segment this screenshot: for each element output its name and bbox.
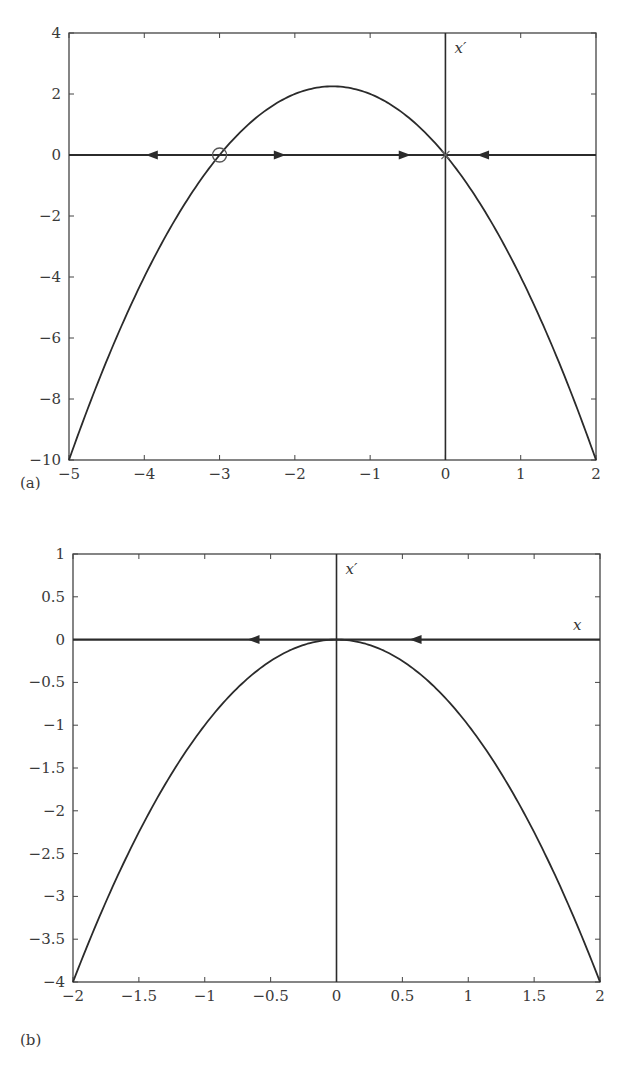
- arrow-right-icon: [399, 151, 411, 160]
- x-axis-label: x: [573, 616, 582, 634]
- y-tick-label: −0.5: [29, 673, 65, 691]
- y-tick-label: 1: [55, 545, 65, 563]
- panel-label-b: (b): [20, 1031, 41, 1049]
- panel-label-a: (a): [20, 474, 41, 492]
- x-tick-label: 0.5: [390, 987, 414, 1005]
- y-tick-label: −1.5: [29, 759, 65, 777]
- xprime-axis-label: x′: [346, 560, 358, 578]
- x-tick-label: 1.5: [522, 987, 546, 1005]
- x-tick-label: 1: [516, 465, 526, 483]
- x-tick-label: −2: [62, 987, 84, 1005]
- arrow-left-icon: [146, 151, 158, 160]
- x-tick-label: −2: [284, 465, 306, 483]
- y-tick-label: 4: [51, 24, 61, 42]
- curve-line: [69, 86, 596, 460]
- arrow-left-icon: [247, 635, 259, 644]
- y-tick-label: −2: [43, 802, 65, 820]
- x-tick-label: −0.5: [252, 987, 288, 1005]
- x-tick-label: −1.5: [121, 987, 157, 1005]
- chart-panel-b: −2−1.5−1−0.500.511.52−4−3.5−3−2.5−2−1.5−…: [29, 545, 605, 1005]
- x-tick-label: −4: [133, 465, 155, 483]
- y-tick-label: −8: [39, 390, 61, 408]
- y-tick-label: 0: [51, 146, 61, 164]
- x-tick-label: 0: [332, 987, 342, 1005]
- y-tick-label: −10: [29, 451, 61, 469]
- y-tick-label: 0.5: [41, 588, 65, 606]
- x-tick-label: 0: [441, 465, 451, 483]
- x-tick-label: 2: [591, 465, 601, 483]
- x-tick-label: 2: [595, 987, 605, 1005]
- y-tick-label: −3.5: [29, 930, 65, 948]
- y-tick-label: −6: [39, 329, 61, 347]
- chart-panel-a: −5−4−3−2−1012−10−8−6−4−2024x′: [29, 24, 600, 483]
- y-tick-label: −4: [43, 973, 65, 991]
- y-tick-label: −2: [39, 207, 61, 225]
- plot-frame: [69, 33, 596, 460]
- x-tick-label: −1: [359, 465, 381, 483]
- x-tick-label: −5: [58, 465, 80, 483]
- arrow-left-icon: [477, 151, 489, 160]
- y-tick-label: −3: [43, 887, 65, 905]
- y-tick-label: −2.5: [29, 845, 65, 863]
- arrow-right-icon: [274, 151, 286, 160]
- x-tick-label: 1: [463, 987, 473, 1005]
- x-tick-label: −1: [194, 987, 216, 1005]
- figure: −5−4−3−2−1012−10−8−6−4−2024x′ −2−1.5−1−0…: [0, 0, 629, 1074]
- y-tick-label: 2: [51, 85, 61, 103]
- xprime-axis-label: x′: [454, 39, 466, 57]
- x-tick-label: −3: [209, 465, 231, 483]
- y-tick-label: −1: [43, 716, 65, 734]
- arrow-left-icon: [410, 635, 422, 644]
- y-tick-label: −4: [39, 268, 61, 286]
- y-tick-label: 0: [55, 631, 65, 649]
